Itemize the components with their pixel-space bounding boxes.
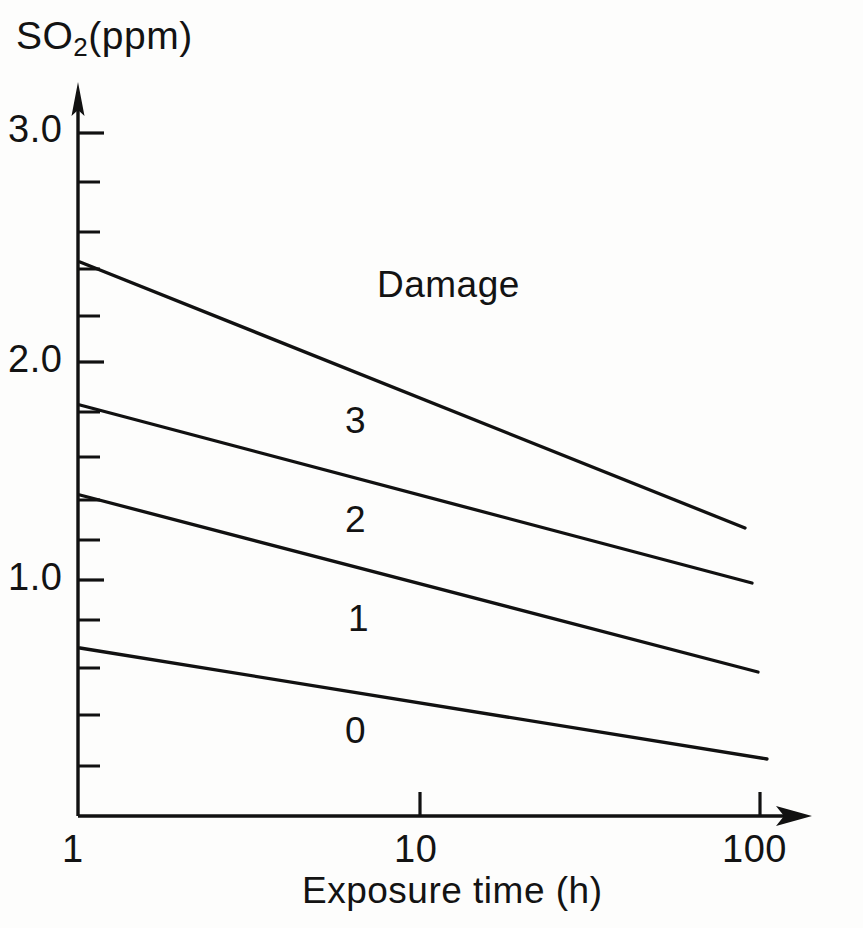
chart-figure: SO2(ppm) Exposure time (h) 3.0 2.0 1.0 1…	[0, 0, 863, 928]
chart-canvas	[0, 0, 863, 928]
x-axis-ticks	[420, 792, 760, 816]
y-axis-major-ticks	[78, 133, 104, 580]
damage-level-label-2: 2	[345, 499, 366, 541]
x-axis	[78, 792, 812, 826]
damage-level-label-1: 1	[348, 598, 369, 640]
damage-legend-title: Damage	[377, 264, 520, 306]
series-line-damage-1-2	[80, 495, 758, 672]
y-axis-title-subscript: 2	[73, 32, 88, 62]
y-axis-title: SO2(ppm)	[16, 14, 193, 58]
x-tick-label-1: 1	[62, 828, 84, 871]
series-line-damage-2-3	[80, 405, 752, 583]
x-axis-title: Exposure time (h)	[302, 870, 603, 912]
damage-level-label-3: 3	[345, 400, 366, 442]
y-tick-label-3: 3.0	[8, 108, 62, 151]
x-tick-label-10: 10	[394, 828, 437, 871]
y-tick-label-2: 2.0	[8, 338, 62, 381]
y-tick-label-1: 1.0	[8, 556, 62, 599]
y-axis	[72, 82, 105, 816]
y-axis-title-unit: (ppm)	[88, 14, 192, 57]
x-tick-label-100: 100	[722, 828, 787, 871]
series-lines	[80, 262, 767, 759]
series-line-damage-0-1	[80, 648, 767, 759]
damage-level-label-0: 0	[345, 710, 366, 752]
y-axis-title-base: SO	[16, 14, 73, 57]
